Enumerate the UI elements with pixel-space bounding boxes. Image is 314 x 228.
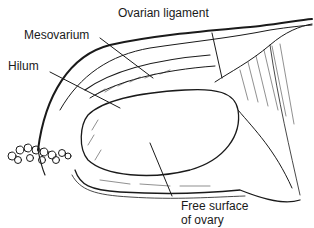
leader-mesovarium: [100, 38, 153, 78]
leader-ovarian-ligament: [212, 33, 222, 78]
label-of-ovary: of ovary: [181, 213, 224, 227]
leader-free-surface: [150, 143, 172, 196]
label-ovarian-ligament: Ovarian ligament: [118, 6, 209, 20]
label-hilum: Hilum: [8, 59, 39, 73]
shading-hatching: [88, 44, 294, 186]
ovary-outline: [81, 90, 238, 176]
label-mesovarium: Mesovarium: [24, 28, 89, 42]
leader-hilum: [50, 72, 120, 108]
fimbriae: [8, 144, 71, 164]
label-free-surface: Free surface: [181, 199, 248, 213]
